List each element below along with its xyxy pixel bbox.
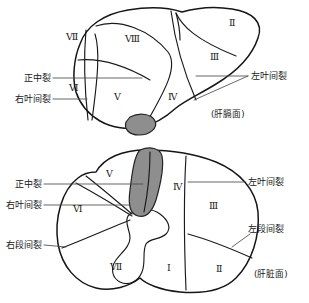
segment-label-u-5: Ⅴ: [113, 92, 121, 102]
segment-label-u-4: Ⅳ: [168, 92, 178, 102]
annotation-l-median-fissure: 正中裂: [15, 178, 42, 189]
liver-segmentation-figure: Ⅶ Ⅷ Ⅱ Ⅲ Ⅵ Ⅴ Ⅳ Ⅴ Ⅳ Ⅵ Ⅲ Ⅶ Ⅰ Ⅱ 正中裂 右叶间裂 左叶间…: [0, 0, 309, 303]
segment-label-l-2: Ⅱ: [216, 264, 223, 274]
segment-label-u-7: Ⅶ: [65, 32, 79, 42]
segment-label-l-6: Ⅵ: [72, 204, 83, 214]
segment-label-u-3: Ⅲ: [210, 52, 220, 62]
annotation-l-left-intersegment: 左段间裂: [248, 223, 284, 234]
annotation-u-median-fissure: 正中裂: [24, 72, 51, 83]
segment-label-l-7: Ⅶ: [109, 262, 123, 272]
segment-label-l-1: Ⅰ: [167, 263, 171, 273]
segment-label-l-5: Ⅴ: [105, 169, 113, 179]
annotation-l-right-intersegment: 右段间裂: [6, 239, 42, 250]
caption-upper-panel: (肝膈面): [211, 109, 245, 119]
segment-label-l-3: Ⅲ: [209, 201, 219, 211]
annotation-u-left-interlobar: 左叶间裂: [251, 70, 287, 81]
segment-label-l-4: Ⅳ: [173, 182, 183, 192]
figure-text-layer: Ⅶ Ⅷ Ⅱ Ⅲ Ⅵ Ⅴ Ⅳ Ⅴ Ⅳ Ⅵ Ⅲ Ⅶ Ⅰ Ⅱ 正中裂 右叶间裂 左叶间…: [0, 0, 309, 303]
caption-lower-panel: (肝脏面): [254, 268, 288, 279]
segment-label-u-6: Ⅵ: [68, 83, 79, 93]
annotation-l-left-interlobar: 左叶间裂: [248, 176, 284, 187]
annotation-u-right-interlobar: 右叶间裂: [15, 93, 51, 104]
annotation-l-right-interlobar: 右叶间裂: [6, 199, 42, 210]
segment-label-u-8: Ⅷ: [124, 34, 140, 44]
segment-label-u-2: Ⅱ: [229, 18, 236, 28]
